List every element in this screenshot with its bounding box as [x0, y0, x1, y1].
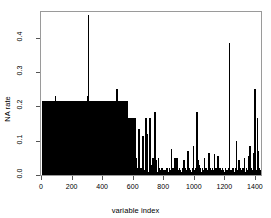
y-axis-title: NA rate [3, 79, 13, 139]
x-tick-label: 800 [148, 183, 178, 190]
x-tick-label: 600 [118, 183, 148, 190]
x-tick-label: 200 [57, 183, 87, 190]
y-tick [36, 38, 40, 39]
x-tick [255, 176, 256, 180]
y-tick [36, 72, 40, 73]
y-tick [36, 106, 40, 107]
x-tick [224, 176, 225, 180]
x-tick [194, 176, 195, 180]
x-axis-title: variable index [0, 206, 271, 215]
y-tick-label: 0.0 [16, 163, 23, 185]
y-tick-label: 0.3 [16, 60, 23, 82]
x-tick-label: 1000 [179, 183, 209, 190]
x-tick-label: 1200 [209, 183, 239, 190]
y-tick-label: 0.2 [16, 94, 23, 116]
x-tick-label: 1400 [240, 183, 270, 190]
x-tick [163, 176, 164, 180]
x-tick [72, 176, 73, 180]
bar-series [41, 12, 261, 175]
x-tick [102, 176, 103, 180]
x-tick [41, 176, 42, 180]
bar [229, 43, 230, 175]
bar [254, 89, 256, 175]
bar [259, 170, 261, 175]
y-tick [36, 141, 40, 142]
x-tick-label: 0 [26, 183, 56, 190]
plot-panel [40, 11, 262, 176]
y-tick-label: 0.4 [16, 25, 23, 47]
x-tick [133, 176, 134, 180]
y-tick-label: 0.1 [16, 128, 23, 150]
na-rate-spike-plot: 0.00.10.20.30.4 020040060080010001200140… [0, 0, 271, 218]
x-tick-label: 400 [87, 183, 117, 190]
y-tick [36, 175, 40, 176]
